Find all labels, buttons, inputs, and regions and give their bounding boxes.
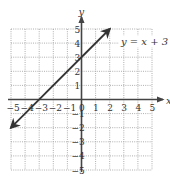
x-tick-label: 5 (150, 103, 156, 113)
x-tick-label: 1 (93, 103, 99, 113)
y-tick-label: −2 (72, 123, 85, 133)
y-tick-label: −4 (72, 151, 86, 161)
y-tick-label: 4 (75, 39, 81, 49)
annotations: y = x + 3 (119, 36, 168, 48)
line-y-equals-x-plus-3 (11, 29, 110, 128)
y-tick-label: −5 (72, 166, 86, 176)
y-tick-label: 2 (75, 67, 81, 77)
x-tick-label: −5 (7, 103, 21, 113)
y-tick-label: 1 (75, 81, 81, 91)
y-tick-label: −1 (72, 109, 85, 119)
x-tick-label: 4 (135, 103, 141, 113)
x-tick-label: −2 (49, 103, 62, 113)
x-tick-label: −3 (35, 103, 49, 113)
equation-label: y = x + 3 (120, 36, 168, 47)
y-axis-label: y (78, 6, 85, 17)
x-axis-label: x (166, 95, 170, 106)
line-series (11, 29, 110, 128)
axes: xy (8, 6, 170, 172)
x-tick-label: 3 (121, 103, 127, 113)
y-tick-label: −3 (72, 137, 86, 147)
x-tick-label: 2 (107, 103, 113, 113)
coordinate-plane: xy −5−4−3−2−1012345−5−4−3−2−112345 y = x… (0, 0, 170, 183)
y-tick-label: 5 (75, 25, 81, 35)
